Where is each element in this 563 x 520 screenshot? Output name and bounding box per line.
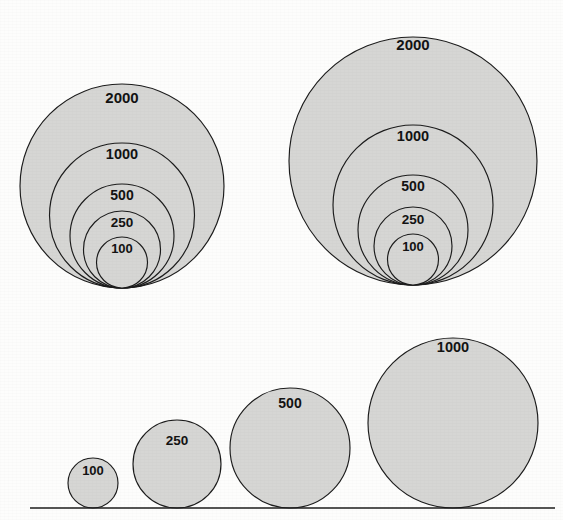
nested-circle-group-right: 20001000500250100 bbox=[289, 36, 537, 285]
circle-value-label: 100 bbox=[82, 463, 104, 478]
baseline-circle-row: 1000500250100 bbox=[68, 338, 538, 508]
circle-value-label: 1000 bbox=[397, 128, 429, 144]
proportional-circle bbox=[368, 338, 538, 508]
circle-value-label: 1000 bbox=[437, 339, 469, 355]
proportional-circle-figure: 20001000500250100 20001000500250100 1000… bbox=[0, 0, 563, 520]
circle-value-label: 100 bbox=[402, 239, 424, 254]
circle-value-label: 2000 bbox=[105, 89, 138, 106]
circle-value-label: 250 bbox=[111, 215, 134, 230]
circle-value-label: 2000 bbox=[396, 36, 429, 53]
circle-value-label: 250 bbox=[166, 433, 189, 448]
circle-value-label: 500 bbox=[278, 395, 302, 411]
figure-root: 20001000500250100 20001000500250100 1000… bbox=[0, 0, 563, 520]
circle-value-label: 500 bbox=[110, 187, 134, 203]
circle-value-label: 100 bbox=[111, 241, 133, 256]
nested-circle-group-left: 20001000500250100 bbox=[20, 84, 224, 288]
circle-value-label: 250 bbox=[402, 212, 425, 227]
circle-value-label: 1000 bbox=[106, 146, 138, 162]
circle-value-label: 500 bbox=[401, 178, 425, 194]
